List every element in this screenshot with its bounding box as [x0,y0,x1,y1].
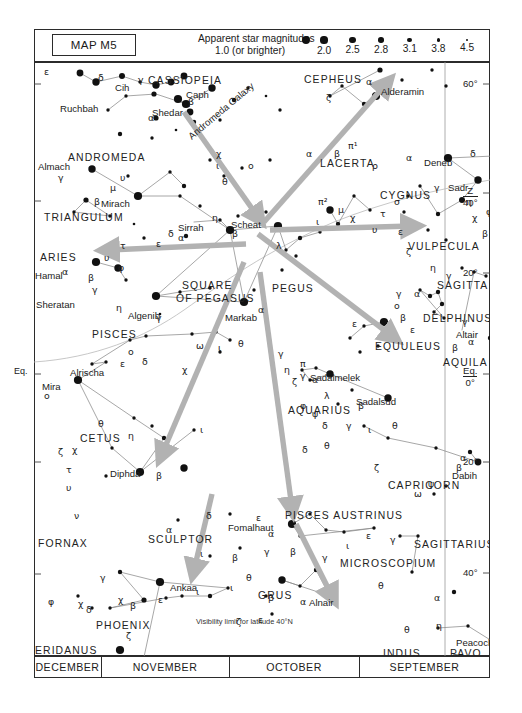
greek-designation: ψ [312,408,318,419]
star-label-alnair: Alnair [309,597,334,608]
greek-designation: α [62,266,68,277]
greek-designation: θ [222,176,228,187]
star-dot [133,223,136,226]
greek-designation: α [300,596,306,607]
star-label-peacock: Peacock [456,637,490,648]
star-dot [152,292,160,300]
greek-designation: β [232,552,238,563]
dec-label-equator-left: Eq. [14,366,28,376]
star-dot [90,362,93,365]
greek-designation: τ [66,464,72,475]
greek-designation: θ [404,624,410,635]
greek-designation: λ [324,390,330,401]
month-label-november: NOVEMBER [101,656,229,678]
star-dot [110,446,113,449]
constellation-label-aquarius: AQUARIUS [288,405,351,416]
greek-designation: ε [352,318,357,329]
star-dot [418,184,421,187]
greek-designation: η [116,302,122,313]
dec-label: 0° [466,377,475,388]
dec-label-equator: Eq.0° [463,365,477,388]
arrow-to-fomalhaut [260,272,292,508]
dec-label-60: 60° [463,78,478,89]
star-dot [108,606,111,609]
star-label-shedar: Shedar [152,107,183,118]
star-dot [372,526,375,529]
greek-designation: μ [338,204,344,215]
greek-designation: ι [196,586,199,597]
star-dot [240,166,243,169]
greek-designation: ε [366,530,371,541]
greek-designation: β [156,470,162,481]
greek-designation: υ [372,224,377,235]
greek-designation: γ [346,420,352,431]
greek-designation: γ [264,546,270,557]
star-dot [151,91,156,96]
visibility-limit-note: Visibility limit for latitude 40°N [196,617,293,626]
greek-designation: γ [278,348,284,359]
dec-label: 40° [463,197,478,208]
star-dot [144,334,147,337]
greek-designation: α [268,528,274,539]
star-label-altair: Altair [456,329,478,340]
greek-designation: λ [276,240,282,251]
star-dot [430,68,433,71]
star-dot [434,446,437,449]
greek-designation: β [268,592,274,603]
star-dot [88,165,95,172]
greek-designation: ι [368,424,371,435]
equator-marker: Eq. [463,365,477,377]
star-dot [428,294,432,298]
star-dot [184,234,188,238]
star-dot [228,512,231,515]
star-dot [268,158,271,161]
star-dot [192,428,195,431]
star-dot [402,210,405,213]
greek-designation: φ [48,596,54,607]
greek-designation: δ [302,444,308,455]
constellation-label-grus: GRUS [258,590,292,601]
greek-designation: ω [196,340,204,351]
greek-designation: ε [410,324,415,335]
star-dot [180,464,187,471]
greek-designation: α [306,148,312,159]
greek-designation: υ [66,482,71,493]
greek-designation: ζ [292,376,297,387]
arrow-to-aries [108,244,246,250]
constellation-label-pisces: PISCES [92,329,137,340]
greek-designation: χ [350,212,355,223]
star-dot [326,206,333,213]
star-dot [298,584,301,587]
star-label-hamal: Hamal [35,270,63,281]
sky-map: CASSIOPEIAANDROMEDATRIANGULUMARIESPISCES… [34,62,490,656]
greek-designation: ε [44,66,49,77]
map-id-box: MAP M5 [52,34,136,56]
star-dot [141,597,146,602]
star-dot [208,554,211,557]
greek-designation: α [414,288,420,299]
star-chart-page: MAP M5 Apparent star magnitudes 1.0 (or … [0,0,522,713]
greek-designation: β [400,312,406,323]
dec-label-20: 20° [463,267,478,278]
legend-magnitude-3-1: 3.1 [397,34,423,54]
star-dot [398,534,401,537]
legend-brightest-label: 1.0 (or brighter) [215,45,285,56]
constellation-label-indus: INDUS [383,648,421,656]
greek-designation: υ [120,172,125,183]
star-dot [294,254,297,257]
star-dot [174,95,182,103]
greek-designation: ι [230,582,233,593]
star-dot [342,530,345,533]
greek-designation: χ [72,444,77,455]
star-dot [150,136,153,139]
greek-designation: α [166,524,172,535]
constellation-label-vulpecula: VULPECULA [408,241,480,252]
star-dot [164,596,167,599]
legend-magnitude-label: 2.0 [311,45,337,56]
star-dot [106,108,109,111]
star-dot [407,38,412,43]
month-divider [101,656,102,678]
greek-designation: β [456,462,462,473]
star-dot [190,332,193,335]
greek-designation: γ [138,74,144,85]
